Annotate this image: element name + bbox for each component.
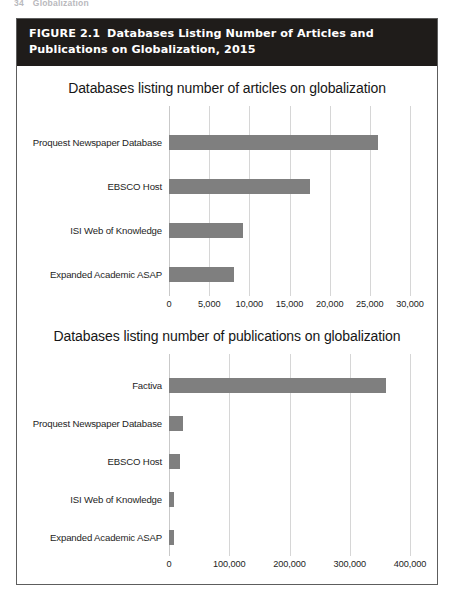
xaxis-tick-label: 25,000	[356, 299, 384, 309]
figure-body: Databases listing number of articles on …	[17, 66, 437, 574]
chart-articles-plot: Proquest Newspaper DatabaseEBSCO HostISI…	[17, 106, 437, 296]
figure-number: FIGURE 2.1	[29, 27, 100, 40]
running-head-title: Globalization	[33, 0, 89, 8]
xaxis-tick-label: 15,000	[276, 299, 304, 309]
bar-label: Expanded Academic ASAP	[16, 269, 169, 280]
chart-publications: Databases listing number of publications…	[17, 314, 437, 574]
chart-publications-title: Databases listing number of publications…	[17, 314, 437, 354]
bar-row: Factiva	[169, 366, 410, 404]
bar	[169, 454, 180, 469]
bar-row: EBSCO Host	[169, 164, 410, 208]
bar-label: Factiva	[16, 380, 169, 391]
bar	[169, 179, 310, 194]
bar-label: Proquest Newspaper Database	[16, 418, 169, 429]
figure-caption: FIGURE 2.1Databases Listing Number of Ar…	[17, 19, 437, 66]
bar	[169, 416, 183, 431]
bar	[169, 378, 386, 393]
bar-label: EBSCO Host	[16, 181, 169, 192]
chart-publications-plot: FactivaProquest Newspaper DatabaseEBSCO …	[17, 354, 437, 556]
bar	[169, 530, 174, 545]
xaxis-tick-label: 5,000	[198, 299, 221, 309]
page-number: 34	[14, 0, 24, 8]
bar-row: Proquest Newspaper Database	[169, 404, 410, 442]
chart-publications-xaxis: 0100,000200,000300,000400,000	[169, 556, 410, 574]
bar-label: EBSCO Host	[16, 456, 169, 467]
bar	[169, 267, 234, 282]
xaxis-tick-label: 10,000	[236, 299, 264, 309]
bar	[169, 135, 378, 150]
chart-publications-plot-area: FactivaProquest Newspaper DatabaseEBSCO …	[169, 354, 410, 556]
xaxis-tick-label: 400,000	[394, 559, 427, 569]
bar-row: ISI Web of Knowledge	[169, 480, 410, 518]
bar-label: ISI Web of Knowledge	[16, 225, 169, 236]
xaxis-tick-label: 30,000	[396, 299, 424, 309]
gridline-400000	[410, 354, 411, 556]
chart-articles-bars: Proquest Newspaper DatabaseEBSCO HostISI…	[169, 106, 410, 296]
bar-row: Expanded Academic ASAP	[169, 518, 410, 556]
bar-row: EBSCO Host	[169, 442, 410, 480]
bar-row: Proquest Newspaper Database	[169, 120, 410, 164]
bar-label: Expanded Academic ASAP	[16, 532, 169, 543]
bar	[169, 223, 243, 238]
chart-articles-plot-area: Proquest Newspaper DatabaseEBSCO HostISI…	[169, 106, 410, 296]
bar-label: ISI Web of Knowledge	[16, 494, 169, 505]
chart-publications-bars: FactivaProquest Newspaper DatabaseEBSCO …	[169, 354, 410, 556]
xaxis-tick-label: 0	[166, 299, 171, 309]
gridline-30000	[410, 106, 411, 296]
xaxis-tick-label: 0	[166, 559, 171, 569]
xaxis-tick-label: 100,000	[213, 559, 246, 569]
xaxis-tick-label: 200,000	[273, 559, 306, 569]
xaxis-tick-label: 300,000	[333, 559, 366, 569]
chart-articles-xaxis: 05,00010,00015,00020,00025,00030,000	[169, 296, 410, 314]
bar-row: Expanded Academic ASAP	[169, 252, 410, 296]
running-head: 34 Globalization	[14, 0, 89, 9]
bar-label: Proquest Newspaper Database	[16, 137, 169, 148]
bar-row: ISI Web of Knowledge	[169, 208, 410, 252]
bar	[169, 492, 174, 507]
chart-articles-title: Databases listing number of articles on …	[17, 66, 437, 106]
chart-articles: Databases listing number of articles on …	[17, 66, 437, 314]
xaxis-tick-label: 20,000	[316, 299, 344, 309]
figure-container: FIGURE 2.1Databases Listing Number of Ar…	[16, 18, 438, 585]
